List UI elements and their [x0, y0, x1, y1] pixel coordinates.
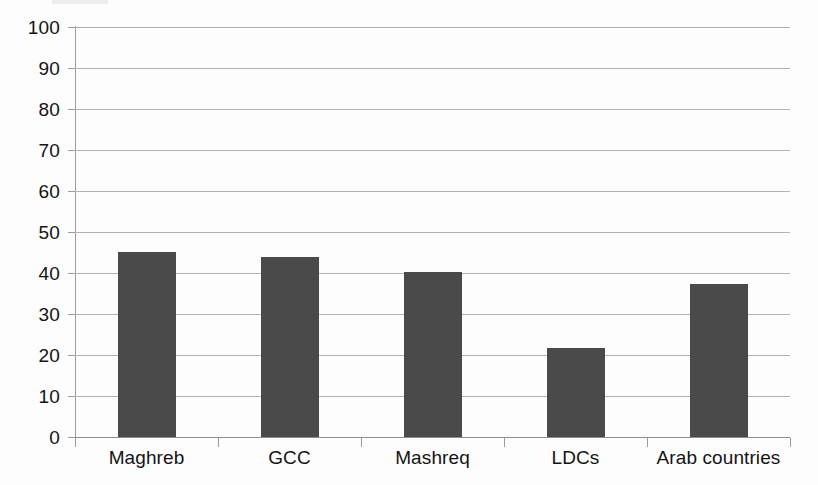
x-axis-tick-mark — [218, 438, 219, 447]
x-axis-tick-mark — [75, 438, 76, 447]
x-axis-tick-label: Arab countries — [657, 448, 781, 467]
x-axis-tick-mark — [790, 438, 791, 447]
x-axis-tick-mark — [504, 438, 505, 447]
x-axis-tick-label: Maghreb — [109, 448, 185, 467]
x-axis-tick-marks — [0, 0, 818, 485]
x-axis-tick-mark — [361, 438, 362, 447]
x-axis-labels: MaghrebGCCMashreqLDCsArab countries — [75, 448, 790, 478]
x-axis-tick-label: Mashreq — [395, 448, 470, 467]
x-axis-tick-label: LDCs — [552, 448, 600, 467]
x-axis-tick-label: GCC — [268, 448, 311, 467]
bar-chart-figure: 1009080706050403020100 MaghrebGCCMashreq… — [0, 0, 818, 485]
x-axis-tick-mark — [647, 438, 648, 447]
